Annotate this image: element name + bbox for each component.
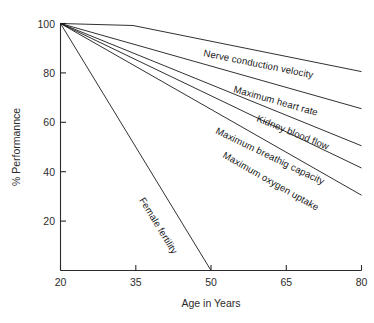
x-tick-label-65: 65 [280,276,292,288]
y-tick-label-60: 60 [43,116,55,128]
y-tick-group [61,24,67,222]
x-tick-label-50: 50 [205,276,217,288]
x-tick-label-80: 80 [356,276,368,288]
x-tick-label-35: 35 [130,276,142,288]
series-line-kidney-blood-flow [61,24,362,146]
y-tick-label-40: 40 [43,166,55,178]
y-tick-label-100: 100 [37,18,55,30]
y-tick-label-group: 100 80 60 40 20 [37,18,55,228]
y-tick-label-80: 80 [43,67,55,79]
chart-container: 100 80 60 40 20 20 35 50 65 80 Age in Ye… [0,0,374,323]
performance-decline-line-chart: 100 80 60 40 20 20 35 50 65 80 Age in Ye… [0,0,374,323]
series-label-nerve-conduction-velocity: Nerve conduction velocity [203,47,315,80]
y-tick-label-20: 20 [43,215,55,227]
y-axis-title: % Performannce [10,108,22,186]
series-label-kidney-blood-flow: Kidney blood flow [255,113,330,152]
x-tick-label-20: 20 [55,276,67,288]
series-line-female-fertility [61,24,212,271]
series-label-group: Nerve conduction velocity Maximum heart … [137,47,330,256]
x-axis-title: Age in Years [182,297,241,309]
x-tick-label-group: 20 35 50 65 80 [55,276,368,288]
series-label-female-fertility: Female fertility [137,195,180,255]
